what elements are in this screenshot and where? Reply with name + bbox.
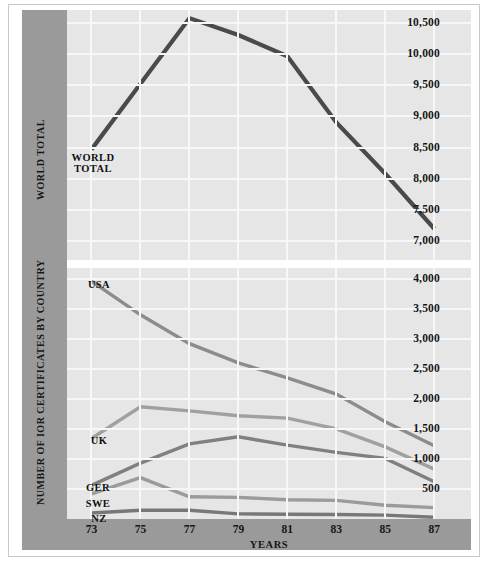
y-tick-label: 7,000 bbox=[413, 235, 440, 247]
series-label-nz: NZ bbox=[84, 513, 114, 524]
y-tick-label: 3,500 bbox=[413, 303, 440, 315]
gridline-vertical bbox=[139, 268, 141, 519]
y-tick-label: 4,000 bbox=[413, 273, 440, 285]
y-tick-label: 1,500 bbox=[413, 423, 440, 435]
y-tick-label: 9,000 bbox=[413, 110, 440, 122]
gridline-vertical bbox=[139, 10, 141, 260]
series-line-nz bbox=[91, 510, 434, 517]
gridline-horizontal bbox=[67, 147, 471, 149]
gridline-horizontal bbox=[67, 368, 471, 370]
y-tick-label: 7,500 bbox=[413, 204, 440, 216]
series-label-uk: UK bbox=[84, 435, 114, 446]
y-tick-label: 10,000 bbox=[407, 48, 440, 60]
series-line-world-total bbox=[91, 18, 434, 229]
gridline-vertical bbox=[188, 10, 190, 260]
y-tick-label: 10,500 bbox=[407, 17, 440, 29]
y-axis-title-bottom: NUMBER OF IOR CERTIFICATES BY COUNTRY bbox=[35, 259, 46, 505]
y-tick-label: 500 bbox=[422, 483, 440, 495]
y-tick-label: 9,500 bbox=[413, 79, 440, 91]
gridline-horizontal bbox=[67, 178, 471, 180]
gridline-vertical bbox=[335, 10, 337, 260]
series-label-world-total-line1: WORLD bbox=[72, 152, 115, 163]
y-tick-label: 2,500 bbox=[413, 363, 440, 375]
gridline-horizontal bbox=[67, 84, 471, 86]
y-tick-label: 8,000 bbox=[413, 173, 440, 185]
y-tick-label: 3,000 bbox=[413, 333, 440, 345]
x-tick-label: 73 bbox=[71, 524, 111, 536]
series-layer-by-country bbox=[67, 268, 471, 519]
gridline-horizontal bbox=[67, 115, 471, 117]
gridline-horizontal bbox=[67, 458, 471, 460]
gridline-vertical bbox=[237, 268, 239, 519]
gridline-horizontal bbox=[67, 308, 471, 310]
gridline-vertical bbox=[384, 10, 386, 260]
y-tick-label: 8,500 bbox=[413, 142, 440, 154]
series-line-swe bbox=[91, 478, 434, 508]
gridline-vertical bbox=[384, 268, 386, 519]
x-tick-label: 81 bbox=[267, 524, 307, 536]
series-label-usa: USA bbox=[84, 279, 114, 290]
plot-area-by-country bbox=[67, 268, 471, 519]
series-label-swe: SWE bbox=[80, 498, 116, 509]
gridline-vertical bbox=[286, 268, 288, 519]
x-axis-title: YEARS bbox=[67, 539, 471, 550]
x-tick-label: 75 bbox=[120, 524, 160, 536]
y-tick-label: 1,000 bbox=[413, 453, 440, 465]
y-tick-label: 2,000 bbox=[413, 393, 440, 405]
gridline-horizontal bbox=[67, 398, 471, 400]
gridline-vertical bbox=[188, 268, 190, 519]
x-tick-label: 79 bbox=[218, 524, 258, 536]
gridline-horizontal bbox=[67, 240, 471, 242]
gridline-horizontal bbox=[67, 428, 471, 430]
gridline-vertical bbox=[90, 10, 92, 260]
gridline-vertical bbox=[286, 10, 288, 260]
y-axis-title-top: WORLD TOTAL bbox=[35, 119, 46, 200]
chart-figure: 10,50010,0009,5009,0008,5008,0007,5007,0… bbox=[0, 0, 489, 566]
gridline-horizontal bbox=[67, 338, 471, 340]
x-tick-label: 85 bbox=[365, 524, 405, 536]
x-tick-label: 83 bbox=[316, 524, 356, 536]
gridline-horizontal bbox=[67, 278, 471, 280]
series-line-usa bbox=[91, 281, 434, 446]
gridline-horizontal bbox=[67, 488, 471, 490]
series-label-world-total: WORLD TOTAL bbox=[64, 152, 122, 174]
gridline-vertical bbox=[335, 268, 337, 519]
series-label-ger: GER bbox=[80, 482, 116, 493]
gridline-vertical bbox=[237, 10, 239, 260]
gridline-horizontal bbox=[67, 209, 471, 211]
x-tick-label: 77 bbox=[169, 524, 209, 536]
x-tick-label: 87 bbox=[414, 524, 454, 536]
series-label-world-total-line2: TOTAL bbox=[74, 163, 112, 174]
